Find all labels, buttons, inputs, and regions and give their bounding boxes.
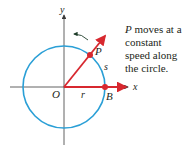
point-b-label: B [106, 90, 113, 102]
y-axis-label: y [59, 4, 65, 15]
radius-label: r [81, 89, 85, 100]
point-p [87, 52, 93, 58]
origin-label: O [52, 88, 60, 100]
vector-op [64, 36, 105, 87]
arc-length-label: s [104, 61, 108, 72]
caption-body: moves at a constant speed along the circ… [125, 23, 182, 74]
point-p-label: P [94, 45, 102, 57]
caption-text: P moves at a constant speed along the ci… [125, 23, 187, 75]
rotation-direction-arrow [74, 34, 88, 40]
caption-subject: P [125, 23, 132, 35]
x-axis-label: x [132, 81, 138, 92]
